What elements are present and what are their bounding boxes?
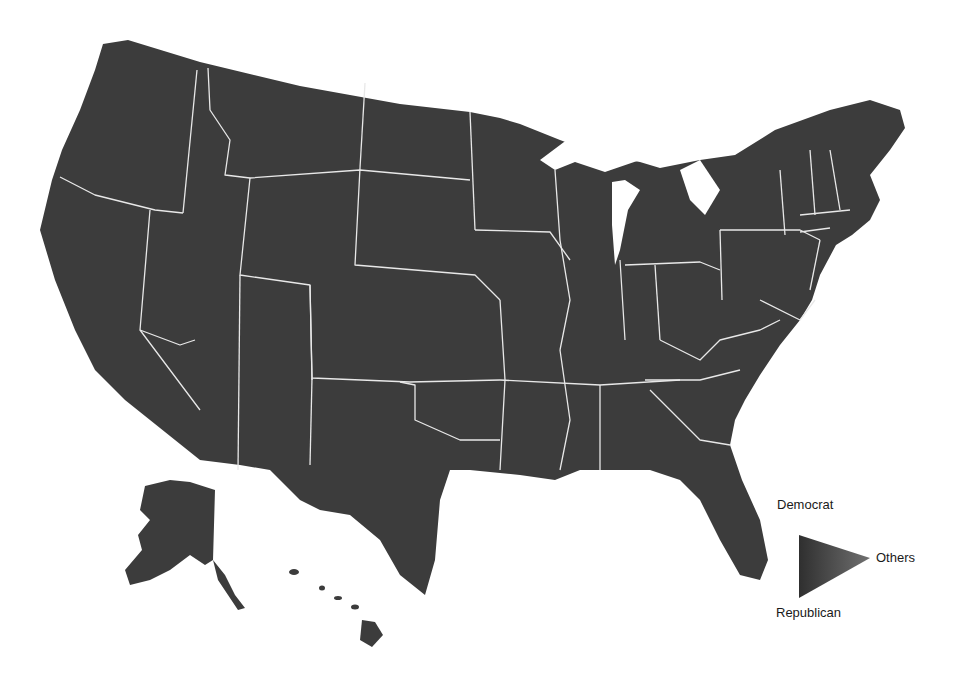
legend-label-others: Others [876, 550, 915, 565]
alaska-inset [125, 480, 215, 585]
legend-ternary-triangle [799, 535, 870, 598]
legend-label-democrat: Democrat [777, 497, 833, 512]
legend-label-republican: Republican [776, 605, 841, 620]
us-county-map [0, 0, 961, 682]
hawaii-inset [289, 569, 383, 647]
alaska-panhandle [213, 560, 245, 610]
